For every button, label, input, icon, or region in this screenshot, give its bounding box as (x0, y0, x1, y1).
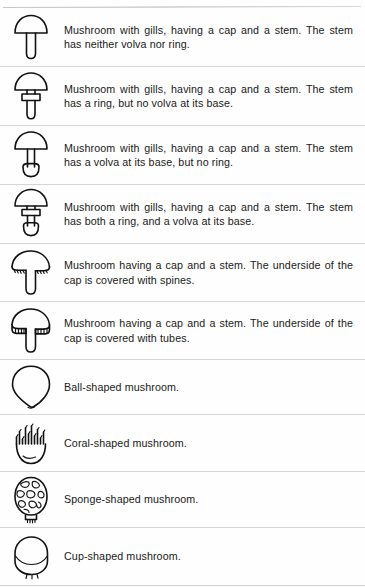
mushroom-legend-sheet: Mushroom with gills, having a cap and a … (0, 0, 365, 588)
icon-cell (0, 248, 62, 298)
row-description: Ball-shaped mushroom. (64, 380, 353, 394)
icon-cell (0, 533, 62, 581)
table-row[interactable]: Cup-shaped mushroom. (0, 528, 365, 586)
row-description: Sponge-shaped mushroom. (64, 492, 353, 506)
table-row[interactable]: Mushroom having a cap and a stem. The un… (0, 302, 365, 360)
description-cell: Cup-shaped mushroom. (62, 549, 365, 563)
mushroom-coral-icon (8, 418, 54, 468)
table-row[interactable]: Mushroom having a cap and a stem. The un… (0, 244, 365, 302)
mushroom-gilled-ring-volva-icon (7, 187, 55, 241)
mushroom-sponge-icon (8, 475, 54, 525)
description-cell: Coral-shaped mushroom. (62, 436, 365, 450)
mushroom-gilled-ring-icon (7, 70, 55, 122)
table-row[interactable]: Mushroom with gills, having a cap and a … (0, 126, 365, 185)
row-description: Mushroom having a cap and a stem. The un… (64, 258, 353, 286)
row-description: Mushroom having a cap and a stem. The un… (64, 316, 353, 344)
mushroom-cup-icon (8, 533, 54, 581)
mushroom-tubed-icon (6, 306, 56, 356)
row-description: Mushroom with gills, having a cap and a … (64, 23, 353, 51)
mushroom-spined-icon (6, 248, 56, 298)
icon-cell (0, 475, 62, 525)
table-row[interactable]: Mushroom with gills, having a cap and a … (0, 185, 365, 244)
row-description: Mushroom with gills, having a cap and a … (64, 82, 353, 110)
legend-row-list: Mushroom with gills, having a cap and a … (0, 8, 365, 586)
icon-cell (0, 129, 62, 181)
table-row[interactable]: Mushroom with gills, having a cap and a … (0, 8, 365, 67)
icon-cell (0, 418, 62, 468)
description-cell: Sponge-shaped mushroom. (62, 492, 365, 506)
mushroom-ball-icon (8, 363, 54, 411)
description-cell: Mushroom with gills, having a cap and a … (62, 141, 365, 169)
icon-cell (0, 363, 62, 411)
description-cell: Mushroom with gills, having a cap and a … (62, 82, 365, 110)
table-row[interactable]: Mushroom with gills, having a cap and a … (0, 67, 365, 126)
table-row[interactable]: Ball-shaped mushroom. (0, 360, 365, 415)
icon-cell (0, 187, 62, 241)
description-cell: Mushroom with gills, having a cap and a … (62, 200, 365, 228)
row-description: Coral-shaped mushroom. (64, 436, 353, 450)
icon-cell (0, 306, 62, 356)
row-description: Cup-shaped mushroom. (64, 549, 353, 563)
row-description: Mushroom with gills, having a cap and a … (64, 141, 353, 169)
description-cell: Mushroom having a cap and a stem. The un… (62, 258, 365, 286)
mushroom-gilled-volva-icon (7, 129, 55, 181)
icon-cell (0, 12, 62, 62)
description-cell: Mushroom with gills, having a cap and a … (62, 23, 365, 51)
description-cell: Mushroom having a cap and a stem. The un… (62, 316, 365, 344)
table-row[interactable]: Sponge-shaped mushroom. (0, 472, 365, 528)
row-description: Mushroom with gills, having a cap and a … (64, 200, 353, 228)
mushroom-gilled-plain-icon (7, 12, 55, 62)
icon-cell (0, 70, 62, 122)
description-cell: Ball-shaped mushroom. (62, 380, 365, 394)
table-row[interactable]: Coral-shaped mushroom. (0, 415, 365, 472)
